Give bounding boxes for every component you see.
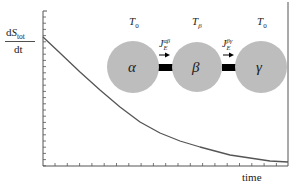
- x-axis-label: time: [242, 171, 262, 183]
- connector-alpha-beta: [158, 64, 174, 71]
- current-alpha-beta: JEαβ: [159, 37, 171, 58]
- reservoir-gamma: γ T0: [235, 15, 287, 93]
- reservoir-beta-temperature: Tβ: [192, 15, 202, 30]
- entropy-production-diagram: dStot dt time α T0 β Tβ γ T0 JEαβ: [0, 0, 299, 193]
- reservoir-alpha: α T0: [107, 15, 159, 93]
- current-beta-gamma: JEβγ: [222, 37, 234, 58]
- reservoir-gamma-temperature: T0: [257, 15, 267, 30]
- ylabel-sub: tot: [17, 32, 26, 41]
- arrow-right-icon: [223, 53, 234, 58]
- reservoir-beta-symbol: β: [191, 59, 200, 75]
- current-alpha-beta-label: JEαβ: [159, 37, 171, 51]
- connector-beta-gamma: [222, 64, 237, 71]
- reservoir-beta: β Tβ: [172, 15, 222, 92]
- arrow-right-icon: [159, 53, 170, 58]
- current-beta-gamma-label: JEβγ: [222, 37, 233, 51]
- y-axis-label: dStot dt: [5, 26, 35, 55]
- reservoir-alpha-symbol: α: [128, 59, 137, 75]
- svg-text:dStot: dStot: [6, 26, 26, 41]
- reservoir-alpha-temperature: T0: [129, 15, 139, 30]
- ylabel-denominator: dt: [14, 43, 23, 55]
